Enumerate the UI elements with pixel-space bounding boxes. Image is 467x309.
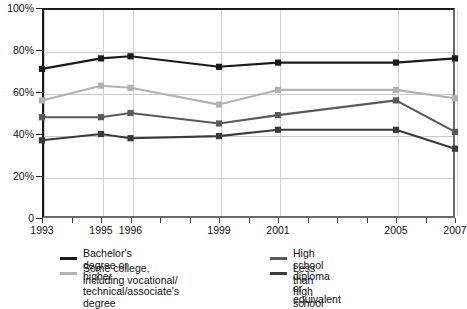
- data-point-marker: [452, 55, 458, 61]
- y-axis-tick-label: 40%: [0, 128, 34, 140]
- series-group: [39, 83, 458, 108]
- data-point-marker: [216, 133, 222, 139]
- x-axis-tick: [219, 218, 220, 223]
- legend-swatch: [270, 272, 287, 275]
- x-axis-tick: [278, 218, 279, 223]
- x-axis-tick: [455, 218, 456, 223]
- x-axis-tick: [72, 218, 73, 223]
- series-group: [39, 53, 458, 72]
- x-axis-tick: [42, 218, 43, 223]
- legend-label: Some college, including vocational/ tech…: [83, 263, 179, 309]
- data-point-marker: [216, 102, 222, 108]
- data-point-marker: [275, 87, 281, 93]
- legend-swatch: [270, 257, 287, 260]
- x-axis-tick-label: 2007: [443, 224, 466, 236]
- data-point-marker: [393, 60, 399, 66]
- x-axis-tick: [131, 218, 132, 223]
- data-point-marker: [98, 55, 104, 61]
- x-axis-tick: [426, 218, 427, 223]
- data-point-marker: [98, 114, 104, 120]
- data-point-marker: [393, 87, 399, 93]
- x-axis-tick-label: 1995: [89, 224, 112, 236]
- x-axis-tick: [308, 218, 309, 223]
- legend-label: Less than high school: [293, 263, 323, 309]
- data-point-marker: [98, 83, 104, 89]
- data-point-marker: [216, 64, 222, 70]
- data-point-marker: [127, 53, 133, 59]
- legend-swatch: [60, 272, 77, 275]
- data-point-marker: [452, 95, 458, 101]
- data-point-marker: [452, 129, 458, 135]
- x-axis-tick-label: 2005: [384, 224, 407, 236]
- data-point-marker: [216, 120, 222, 126]
- data-point-marker: [127, 85, 133, 91]
- legend-swatch: [60, 257, 77, 260]
- data-point-marker: [275, 127, 281, 133]
- data-point-marker: [127, 110, 133, 116]
- data-point-marker: [39, 66, 45, 72]
- data-point-marker: [39, 114, 45, 120]
- x-axis-tick-label: 2001: [266, 224, 289, 236]
- x-axis-tick: [160, 218, 161, 223]
- data-point-marker: [98, 131, 104, 137]
- data-point-marker: [393, 97, 399, 103]
- x-axis-tick: [190, 218, 191, 223]
- x-axis-tick: [396, 218, 397, 223]
- x-axis-tick-label: 1999: [207, 224, 230, 236]
- data-point-marker: [127, 135, 133, 141]
- data-point-marker: [393, 127, 399, 133]
- data-point-marker: [39, 137, 45, 143]
- y-axis-tick-label: 80%: [0, 44, 34, 56]
- x-axis-tick-label: 1993: [30, 224, 53, 236]
- data-point-marker: [39, 97, 45, 103]
- y-axis-tick-label: 0: [0, 212, 34, 224]
- x-axis-tick: [249, 218, 250, 223]
- data-point-marker: [275, 112, 281, 118]
- x-axis-tick: [337, 218, 338, 223]
- y-axis-tick-label: 60%: [0, 86, 34, 98]
- y-axis-tick-label: 100%: [0, 2, 34, 14]
- x-axis-tick-label: 1996: [119, 224, 142, 236]
- data-point-marker: [452, 146, 458, 152]
- series-layer: [42, 8, 455, 218]
- data-point-marker: [275, 60, 281, 66]
- x-axis-tick: [367, 218, 368, 223]
- x-axis-tick: [101, 218, 102, 223]
- gridline-vertical: [457, 10, 458, 216]
- chart-legend: Bachelor's degree or higherSome college,…: [42, 250, 465, 294]
- y-axis-tick-label: 20%: [0, 170, 34, 182]
- series-group: [39, 127, 458, 152]
